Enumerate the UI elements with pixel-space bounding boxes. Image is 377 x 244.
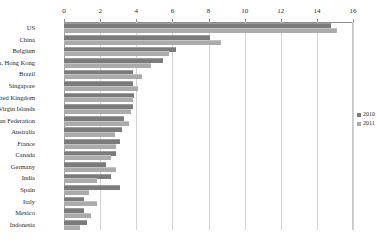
- chart-row: China, Hong Kong: [64, 57, 353, 69]
- category-label: France: [0, 140, 35, 147]
- x-tick-label: 0: [62, 7, 66, 15]
- category-label: Brazil: [0, 70, 35, 77]
- x-tick-label: 2: [98, 7, 102, 15]
- chart-row: Australia: [64, 126, 353, 138]
- legend-swatch-icon: [357, 113, 361, 117]
- bar-2011: [64, 74, 142, 79]
- category-label: Canada: [0, 151, 35, 158]
- bar-2011: [64, 201, 97, 206]
- bar-2011: [64, 109, 131, 114]
- gridline: [353, 22, 354, 230]
- chart-row: Indonesia: [64, 218, 353, 230]
- category-label: China: [0, 36, 35, 43]
- bar-2011: [64, 121, 129, 126]
- category-label: Spain: [0, 186, 35, 193]
- category-label: US: [0, 24, 35, 31]
- bar-2011: [64, 40, 221, 45]
- bar-2011: [64, 28, 337, 33]
- bar-2011: [64, 51, 169, 56]
- legend-item[interactable]: 2010: [357, 110, 375, 119]
- x-tick-label: 16: [350, 7, 357, 15]
- bar-2011: [64, 97, 133, 102]
- bar-2011: [64, 155, 111, 160]
- category-label: Belgium: [0, 47, 35, 54]
- chart-row: Belgium: [64, 45, 353, 57]
- chart-row: Italy: [64, 195, 353, 207]
- chart-legend: 20102011: [357, 110, 375, 128]
- x-tick-label: 14: [313, 7, 320, 15]
- x-tick-label: 6: [171, 7, 175, 15]
- bar-2011: [64, 167, 116, 172]
- chart-row: India: [64, 172, 353, 184]
- chart-row: Brazil: [64, 68, 353, 80]
- bar-2011: [64, 225, 80, 230]
- category-label: British Virgin Islands: [0, 105, 35, 112]
- bar-2011: [64, 178, 97, 183]
- category-label: Italy: [0, 198, 35, 205]
- chart-row: United Kingdom: [64, 91, 353, 103]
- bar-2011: [64, 86, 138, 91]
- chart-row: China: [64, 34, 353, 46]
- category-label: Mexico: [0, 209, 35, 216]
- chart-row: Canada: [64, 149, 353, 161]
- category-label: Singapore: [0, 82, 35, 89]
- x-tick-label: 4: [135, 7, 139, 15]
- bar-chart: 0246810121416 USChinaBelgiumChina, Hong …: [0, 0, 377, 244]
- legend-item[interactable]: 2011: [357, 119, 375, 128]
- category-label: Russian Federation: [0, 117, 35, 124]
- category-label: India: [0, 174, 35, 181]
- chart-row: Germany: [64, 161, 353, 173]
- legend-swatch-icon: [357, 122, 361, 126]
- legend-label: 2010: [363, 110, 375, 119]
- chart-row: Singapore: [64, 80, 353, 92]
- bar-2011: [64, 190, 89, 195]
- legend-label: 2011: [363, 119, 375, 128]
- category-label: Australia: [0, 128, 35, 135]
- x-tick-label: 12: [277, 7, 284, 15]
- chart-row: Spain: [64, 184, 353, 196]
- bar-2011: [64, 63, 151, 68]
- bar-2011: [64, 213, 91, 218]
- bar-2011: [64, 144, 116, 149]
- chart-row: British Virgin Islands: [64, 103, 353, 115]
- category-label: Indonesia: [0, 221, 35, 228]
- category-label: United Kingdom: [0, 94, 35, 101]
- category-label: China, Hong Kong: [0, 59, 35, 66]
- chart-row: Russian Federation: [64, 114, 353, 126]
- chart-row: US: [64, 22, 353, 34]
- chart-row: France: [64, 138, 353, 150]
- plot-area: USChinaBelgiumChina, Hong KongBrazilSing…: [64, 22, 353, 230]
- category-label: Germany: [0, 163, 35, 170]
- bar-2011: [64, 132, 115, 137]
- x-tick-label: 10: [241, 7, 248, 15]
- x-tick-label: 8: [207, 7, 211, 15]
- chart-row: Mexico: [64, 207, 353, 219]
